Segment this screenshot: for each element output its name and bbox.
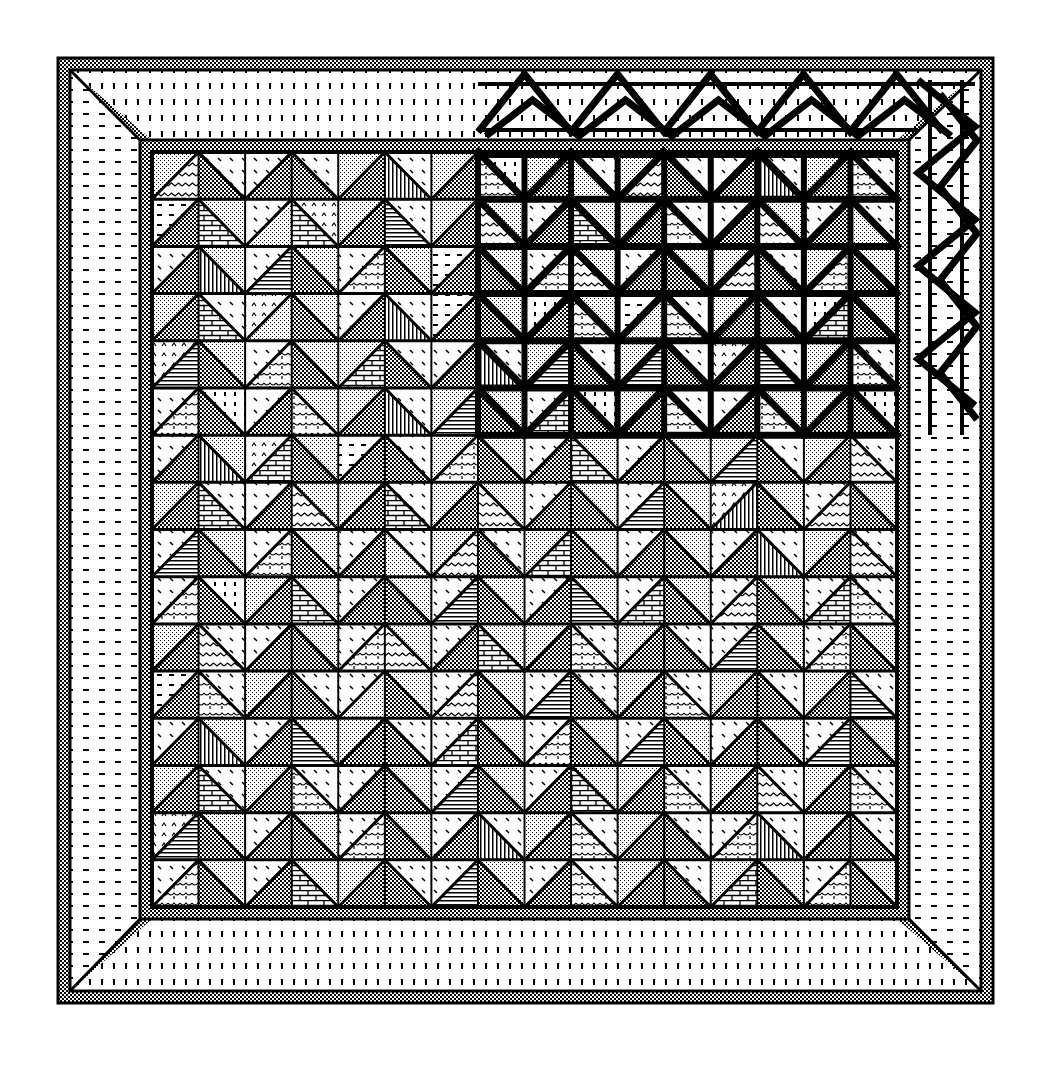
quilt-diagram <box>0 0 1048 1067</box>
border-right <box>909 70 981 991</box>
border-left <box>70 70 140 991</box>
border-bottom <box>70 919 981 991</box>
